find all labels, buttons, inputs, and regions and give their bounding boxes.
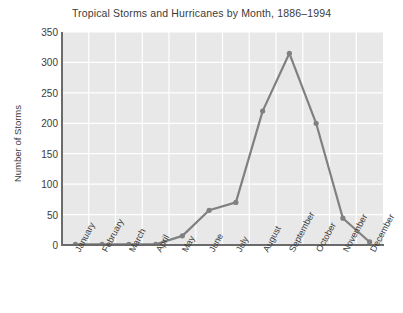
y-tick-label: 50	[0, 209, 58, 220]
data-point	[233, 200, 238, 205]
y-tick-label: 0	[0, 240, 58, 251]
y-tick-label: 300	[0, 57, 58, 68]
y-tick-label: 350	[0, 27, 58, 38]
data-point	[340, 216, 345, 221]
data-point	[180, 233, 185, 238]
data-point	[314, 121, 319, 126]
data-point	[287, 51, 292, 56]
chart-figure: Tropical Storms and Hurricanes by Month,…	[0, 0, 403, 313]
plot-area: 050100150200250300350 JanuaryFebruaryMar…	[62, 32, 383, 245]
chart-plot-svg	[62, 32, 383, 245]
vertical-gridlines	[89, 32, 357, 245]
y-tick-label: 200	[0, 118, 58, 129]
data-point	[260, 109, 265, 114]
y-tick-label: 100	[0, 179, 58, 190]
chart-title: Tropical Storms and Hurricanes by Month,…	[0, 7, 403, 19]
y-tick-label: 150	[0, 148, 58, 159]
y-axis-spine	[61, 32, 63, 246]
y-tick-label: 250	[0, 87, 58, 98]
data-point	[207, 208, 212, 213]
